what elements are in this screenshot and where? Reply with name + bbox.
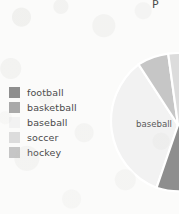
- legend-label-soccer: soccer: [27, 132, 59, 143]
- legend-label-hockey: hockey: [27, 147, 61, 158]
- legend-label-football: football: [27, 87, 64, 98]
- pie-label-baseball: baseball: [136, 119, 172, 129]
- legend-swatch-soccer: [9, 132, 20, 143]
- legend-item-hockey[interactable]: hockey: [9, 145, 77, 160]
- legend-item-football[interactable]: football: [9, 85, 77, 100]
- legend-swatch-football: [9, 87, 20, 98]
- legend-item-soccer[interactable]: soccer: [9, 130, 77, 145]
- pie-chart: baseball soccer: [106, 53, 179, 197]
- legend-swatch-baseball: [9, 117, 20, 128]
- legend-label-baseball: baseball: [27, 117, 68, 128]
- chart-title: P: [152, 0, 179, 12]
- legend-swatch-hockey: [9, 147, 20, 158]
- legend-item-basketball[interactable]: basketball: [9, 100, 77, 115]
- legend-label-basketball: basketball: [27, 102, 77, 113]
- chart-legend: football basketball baseball soccer hock…: [9, 85, 77, 160]
- page-canvas: P baseball soccer football basketball: [0, 0, 179, 214]
- legend-item-baseball[interactable]: baseball: [9, 115, 77, 130]
- legend-swatch-basketball: [9, 102, 20, 113]
